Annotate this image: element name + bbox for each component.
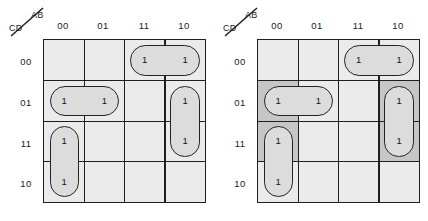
col-header-2: 11 (124, 20, 164, 31)
cell-value-one: 1 (44, 96, 84, 106)
axis-label-ab: AB (31, 10, 44, 20)
col-header-0: 00 (257, 20, 297, 31)
col-header-0: 00 (43, 20, 83, 31)
row-header-2: 11 (227, 138, 253, 149)
cell-value-one: 1 (258, 96, 298, 106)
cell-value-one: 1 (258, 177, 298, 187)
row-header-3: 10 (227, 178, 253, 189)
row-header-3: 10 (13, 178, 39, 189)
row-header-1: 01 (13, 97, 39, 108)
cell-value-one: 1 (165, 55, 205, 65)
col-header-1: 01 (297, 20, 337, 31)
cell-value-one: 1 (44, 177, 84, 187)
cell-value-one: 1 (44, 136, 84, 146)
col-header-2: 11 (338, 20, 378, 31)
cell-value-one: 1 (165, 96, 205, 106)
cell-value-one: 1 (125, 55, 165, 65)
row-header-2: 11 (13, 138, 39, 149)
col-header-1: 01 (83, 20, 123, 31)
col-header-3: 10 (378, 20, 418, 31)
cell-value-one: 1 (298, 96, 338, 106)
row-header-0: 00 (227, 56, 253, 67)
cell-value-one: 1 (84, 96, 124, 106)
cell-value-one: 1 (339, 55, 379, 65)
cell-value-one: 1 (258, 136, 298, 146)
grid-hline-1 (44, 80, 205, 81)
kmap-right-grid: 11111111 (257, 39, 420, 203)
kmap-left: AB CD 00 01 11 10 00 01 11 10 11111111 (0, 0, 214, 221)
grid-hline-1 (258, 80, 419, 81)
cell-value-one: 1 (379, 96, 419, 106)
cell-value-one: 1 (165, 136, 205, 146)
row-header-0: 00 (13, 56, 39, 67)
axis-label-ab: AB (245, 10, 258, 20)
kmap-left-grid: 11111111 (43, 39, 206, 203)
col-header-3: 10 (164, 20, 204, 31)
kmap-right: AB CD 00 01 11 10 00 01 11 10 11111111 (214, 0, 428, 221)
row-header-1: 01 (227, 97, 253, 108)
cell-value-one: 1 (379, 136, 419, 146)
cell-value-one: 1 (379, 55, 419, 65)
axis-label-cd: CD (223, 23, 237, 33)
axis-label-cd: CD (9, 23, 23, 33)
